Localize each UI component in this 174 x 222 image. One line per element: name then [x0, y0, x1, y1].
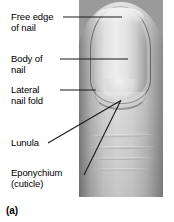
finger-photograph	[79, 0, 163, 197]
label-body-of-nail: Body of nail	[11, 53, 43, 75]
label-free-edge-of-nail: Free edge of nail	[11, 11, 53, 33]
panel-label: (a)	[6, 205, 18, 216]
label-lateral-nail-fold: Lateral nail fold	[11, 84, 43, 106]
skin-crease	[93, 168, 151, 171]
label-lunula: Lunula	[11, 137, 39, 148]
fingernail-anatomy-figure: Free edge of nail Body of nail Lateral n…	[0, 0, 174, 222]
label-eponychium: Eponychium (cuticle)	[11, 167, 62, 189]
free-edge-of-nail	[95, 8, 144, 22]
